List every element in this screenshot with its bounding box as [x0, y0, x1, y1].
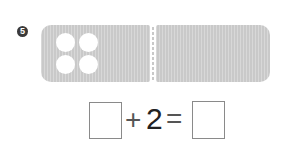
left-bar: [41, 25, 150, 82]
dot-icon: [56, 33, 75, 52]
dot-icon: [56, 55, 75, 74]
bar-divider: [152, 27, 154, 80]
addend-number: 2: [146, 104, 163, 134]
dot-icon: [79, 55, 98, 74]
equals-sign: =: [166, 104, 182, 134]
right-bar: [156, 25, 270, 82]
problem-number-badge: 5: [17, 26, 28, 37]
plus-sign: +: [125, 105, 141, 135]
dot-icon: [79, 33, 98, 52]
answer-box-2[interactable]: [192, 101, 225, 139]
answer-box-1[interactable]: [89, 102, 122, 139]
